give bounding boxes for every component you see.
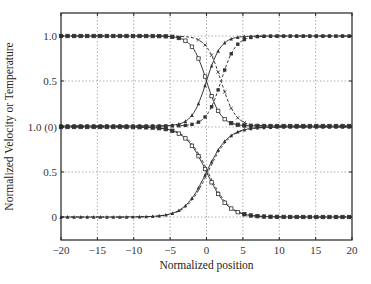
square-marker [99,34,102,37]
filled-square-marker [230,52,233,55]
filled-square-marker [321,34,324,37]
filled-square-marker [223,68,226,71]
square-marker [203,75,206,78]
square-marker [151,34,154,37]
filled-square-marker [341,34,344,37]
square-marker [223,201,226,204]
square-marker [302,215,305,218]
square-marker [151,126,154,129]
square-marker [315,215,318,218]
filled-square-marker [308,34,311,37]
filled-square-marker [328,34,331,37]
filled-square-marker [190,123,193,126]
filled-square-marker [216,88,219,91]
square-marker [216,192,219,195]
x-marker [197,38,200,41]
square-marker [321,215,324,218]
square-marker [85,34,88,37]
square-marker [85,125,88,128]
square-marker [328,215,331,218]
square-marker [190,144,193,147]
square-marker [105,125,108,128]
x-axis-label: Normalized position [159,259,253,272]
square-marker [125,125,128,128]
square-marker [230,121,233,124]
filled-square-marker [315,34,318,37]
square-marker [118,125,121,128]
filled-square-marker [262,35,265,38]
square-marker [177,132,180,135]
y-tick-label: 0.5 [43,75,57,87]
filled-square-marker [282,34,285,37]
square-marker [164,127,167,130]
square-marker [288,215,291,218]
square-marker [236,123,239,126]
square-marker [184,39,187,42]
square-marker [262,215,265,218]
filled-square-marker [203,115,206,118]
square-marker [112,34,115,37]
x-tick-label: 5 [240,244,246,256]
x-marker [230,106,233,109]
x-tick-label: 10 [274,244,286,256]
square-marker [334,215,337,218]
x-tick-label: −10 [125,244,143,256]
filled-square-marker [269,34,272,37]
x-tick-label: 0 [204,244,210,256]
square-marker [269,215,272,218]
square-marker [282,215,285,218]
curve-upper-rising-solid [61,36,352,126]
square-marker [92,125,95,128]
x-tick-label: −15 [89,244,107,256]
square-marker [243,124,246,127]
square-marker [144,34,147,37]
x-tick-label: −20 [52,244,70,256]
x-tick-label: 15 [310,244,322,256]
square-marker [171,129,174,132]
square-marker [216,109,219,112]
square-marker [118,34,121,37]
filled-square-marker [275,34,278,37]
square-marker [164,35,167,38]
filled-square-marker [288,34,291,37]
x-tick-label: −5 [164,244,176,256]
x-tick-label: 20 [347,244,359,256]
filled-square-marker [184,124,187,127]
filled-square-marker [210,105,213,108]
square-marker [66,34,69,37]
square-marker [230,207,233,210]
filled-square-marker [334,34,337,37]
square-marker [210,94,213,97]
filled-square-marker [302,34,305,37]
triangle-marker [210,64,213,68]
y-axis-label: Normalized Velocity or Temperature [3,42,16,210]
square-marker [243,213,246,216]
square-marker [79,125,82,128]
square-marker [125,34,128,37]
square-marker [249,214,252,217]
y-tick-label: 0 [52,211,58,223]
triangle-marker [197,102,200,106]
x-axis-ticks: −20−15−10−505101520 [52,13,358,256]
square-marker [203,167,206,170]
filled-square-marker [256,35,259,38]
square-marker [158,126,161,129]
square-marker [197,57,200,60]
square-marker [92,34,95,37]
square-marker [184,137,187,140]
square-marker [275,215,278,218]
square-marker [210,181,213,184]
square-marker [223,117,226,120]
filled-square-marker [197,120,200,123]
square-marker [138,125,141,128]
square-marker [177,36,180,39]
y-tick-label: 1.0 [43,30,57,42]
square-marker [341,215,344,218]
square-marker [72,34,75,37]
chart: −20−15−10−505101520 1.00.51.0 (0)0.50 No… [0,0,371,284]
square-marker [131,34,134,37]
square-marker [171,35,174,38]
square-marker [112,125,115,128]
square-marker [308,215,311,218]
y-tick-label: 1.0 (0) [28,121,58,134]
